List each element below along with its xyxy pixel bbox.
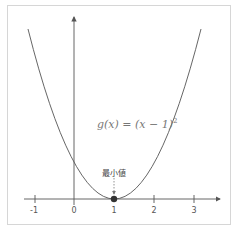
x-tick-label: 2 (151, 206, 156, 215)
minimum-point (111, 196, 117, 202)
minimum-label: 最小値 (102, 167, 126, 178)
parabola-graph (0, 0, 235, 231)
x-tick-label: 3 (191, 206, 196, 215)
function-label-text: g(x) = (x − 1) (97, 118, 173, 131)
x-tick-label: 1 (111, 206, 116, 215)
function-label: g(x) = (x − 1)2 (97, 117, 178, 131)
x-tick-label: -1 (30, 206, 38, 215)
x-tick-label: 0 (71, 206, 76, 215)
function-exponent: 2 (173, 117, 177, 125)
